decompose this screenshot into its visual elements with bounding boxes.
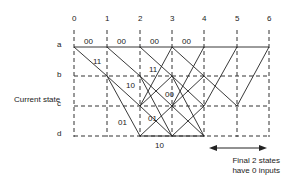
svg-text:11: 11 [149,65,158,74]
svg-text:00: 00 [117,37,126,46]
svg-text:11: 11 [93,57,102,66]
svg-text:3: 3 [170,14,175,23]
axis-label-current-state: Current state [14,95,60,105]
svg-text:4: 4 [202,14,207,23]
svg-text:5: 5 [235,14,240,23]
svg-text:00: 00 [84,37,93,46]
svg-text:00: 00 [150,37,159,46]
svg-text:10: 10 [155,141,164,150]
svg-text:d: d [57,129,61,138]
annotation-line-1: Final 2 states [210,156,280,166]
double-arrow-icon [209,145,267,151]
vertical-grid [74,30,269,137]
state-labels: a b c d [57,40,62,138]
svg-text:00: 00 [165,90,174,99]
svg-text:01: 01 [118,118,127,127]
time-step-labels: 0 1 2 3 4 5 6 [72,14,272,23]
svg-text:01: 01 [148,114,157,123]
annotation-line-2: have 0 inputs [210,166,280,176]
svg-text:00: 00 [182,37,191,46]
svg-text:2: 2 [138,14,143,23]
svg-text:6: 6 [267,14,272,23]
svg-text:10: 10 [126,81,135,90]
svg-text:a: a [57,40,62,49]
svg-text:1: 1 [105,14,110,23]
annotation-final-states: Final 2 states have 0 inputs [210,156,280,176]
svg-text:b: b [57,70,62,79]
svg-text:0: 0 [72,14,77,23]
